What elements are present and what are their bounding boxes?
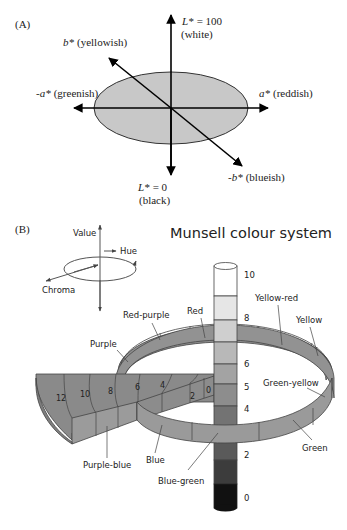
hue-red: Red: [187, 306, 203, 316]
l-bottom-desc: (black): [139, 194, 170, 207]
value-10: 10: [244, 270, 255, 280]
hue-purple: Purple: [90, 339, 117, 349]
hvc-legend: Value Hue Chroma: [42, 225, 137, 311]
value-5: 5: [244, 382, 249, 392]
value-column: 10 8 6 5 4 2 0: [214, 263, 255, 512]
figure: (A) L*= 100 (white) b*(yellowish) -a*(gr…: [0, 0, 347, 530]
chroma-6: 6: [135, 383, 140, 392]
b-neg-label: -b*(blueish): [228, 171, 285, 184]
value-8: 8: [244, 313, 249, 323]
legend-hue: Hue: [120, 246, 137, 256]
hue-blue-green: Blue-green: [158, 476, 204, 486]
chroma-8: 8: [108, 387, 113, 396]
a-neg-label: -a*(greenish): [36, 87, 99, 100]
b-pos-label: b*(yellowish): [63, 36, 127, 49]
chroma-2: 2: [190, 392, 195, 401]
legend-chroma: Chroma: [42, 285, 75, 295]
chroma-10: 10: [80, 390, 90, 399]
panel-b-label: (B): [15, 223, 30, 236]
value-6: 6: [244, 359, 249, 369]
panel-b: (B) Munsell colour system Value Hue Chro…: [15, 223, 334, 512]
value-2: 2: [244, 450, 249, 460]
value-0: 0: [244, 493, 249, 503]
l-top-label: L*= 100: [181, 15, 223, 27]
a-pos-label: a*(reddish): [259, 87, 313, 100]
l-bottom-label: L*= 0: [137, 181, 168, 193]
panel-a-label: (A): [15, 18, 31, 31]
hue-yellow-red: Yellow-red: [254, 293, 298, 303]
hue-green: Green: [302, 443, 328, 453]
panel-b-title: Munsell colour system: [170, 225, 332, 241]
chroma-12: 12: [56, 394, 66, 403]
value-4: 4: [244, 404, 249, 414]
chroma-4: 4: [160, 381, 165, 390]
hue-yellow: Yellow: [295, 315, 322, 325]
l-top-desc: (white): [181, 28, 213, 41]
chroma-0: 0: [206, 386, 211, 395]
hue-purple-blue: Purple-blue: [83, 460, 131, 470]
hue-blue: Blue: [146, 455, 165, 465]
legend-value: Value: [73, 228, 96, 238]
panel-a: (A) L*= 100 (white) b*(yellowish) -a*(gr…: [15, 15, 313, 207]
hue-red-purple: Red-purple: [123, 310, 169, 320]
hue-green-yellow: Green-yellow: [263, 378, 319, 388]
